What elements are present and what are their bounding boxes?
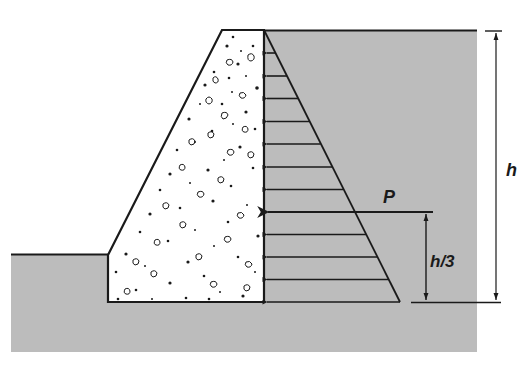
retaining-wall-diagram <box>0 0 527 371</box>
concrete-wall <box>108 30 264 302</box>
resultant-force-label: P <box>383 188 395 206</box>
h3-label: h/3 <box>430 253 455 270</box>
height-label: h <box>506 161 517 179</box>
retained-soil <box>264 30 477 352</box>
